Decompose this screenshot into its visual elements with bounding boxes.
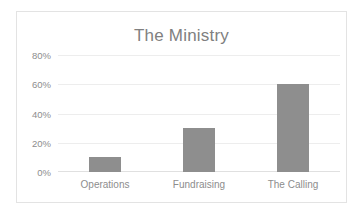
x-axis-tick-label: Fundraising — [173, 179, 225, 190]
y-axis-tick-label: 0% — [37, 167, 51, 178]
bar[interactable] — [183, 128, 215, 172]
bar-group: The Calling — [246, 55, 340, 172]
bar[interactable] — [89, 157, 121, 172]
bar-group: Operations — [58, 55, 152, 172]
bar-group: Fundraising — [152, 55, 246, 172]
x-axis-tick-label: Operations — [81, 179, 130, 190]
y-axis-tick-label: 40% — [32, 108, 51, 119]
bar[interactable] — [277, 84, 309, 172]
plot-area: 0%20%40%60%80% OperationsFundraisingThe … — [58, 55, 340, 172]
y-axis-tick-label: 60% — [32, 79, 51, 90]
y-axis-tick-label: 20% — [32, 137, 51, 148]
y-axis-tick-label: 80% — [32, 50, 51, 61]
bars-layer: OperationsFundraisingThe Calling — [58, 55, 340, 172]
x-axis-tick-label: The Calling — [268, 179, 319, 190]
chart-title: The Ministry — [17, 26, 346, 46]
